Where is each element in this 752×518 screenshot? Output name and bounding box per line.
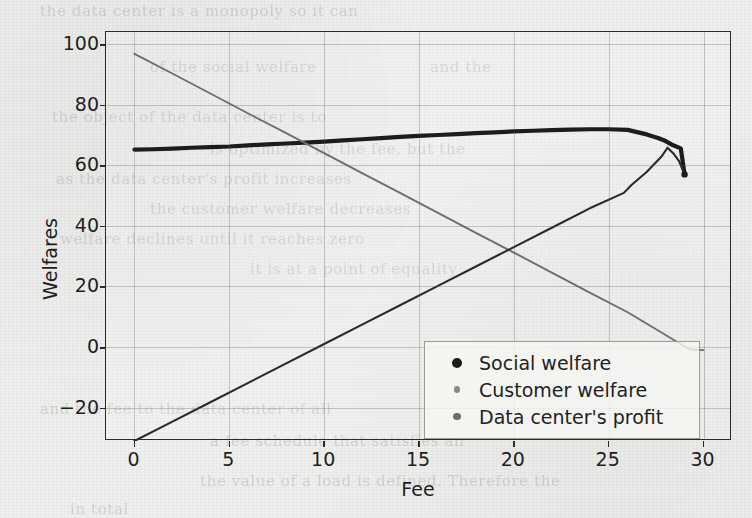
legend-item[interactable]: Customer welfare (435, 376, 689, 403)
gridline-horizontal (106, 226, 730, 227)
y-tick-label: −20 (59, 397, 99, 416)
y-tick-label: 20 (75, 276, 99, 295)
legend-item[interactable]: Data center's profit (435, 403, 689, 430)
x-tick-mark (513, 441, 515, 447)
x-tick-label: 10 (311, 450, 335, 469)
x-tick-mark (229, 441, 231, 447)
x-axis-tick-labels: 051015202530 (105, 446, 731, 472)
y-axis-tick-labels: −20020406080100 (0, 31, 99, 440)
y-tick-mark (100, 105, 106, 107)
welfares-vs-fee-figure: Welfares Fee −20020406080100 05101520253… (0, 0, 752, 518)
x-axis-label: Fee (401, 478, 434, 500)
x-tick-label: 25 (596, 450, 620, 469)
legend-label: Customer welfare (479, 379, 647, 401)
x-tick-label: 15 (406, 450, 430, 469)
chart-legend[interactable]: Social welfareCustomer welfareData cente… (424, 341, 700, 439)
x-tick-mark (134, 441, 136, 447)
y-tick-mark (100, 286, 106, 288)
y-tick-mark (100, 44, 106, 46)
y-tick-mark (100, 226, 106, 228)
x-tick-label: 20 (501, 450, 525, 469)
gridline-vertical (419, 32, 420, 439)
y-tick-label: 0 (87, 337, 99, 356)
x-tick-mark (418, 441, 420, 447)
gridline-vertical (134, 32, 135, 439)
x-tick-mark (323, 441, 325, 447)
y-tick-label: 80 (75, 94, 99, 113)
legend-label: Data center's profit (479, 406, 663, 428)
x-tick-label: 0 (127, 450, 139, 469)
x-tick-label: 5 (222, 450, 234, 469)
legend-marker-dot-icon (435, 358, 479, 368)
y-tick-label: 40 (75, 215, 99, 234)
legend-marker-dot-icon (435, 413, 479, 420)
gridline-horizontal (106, 44, 730, 45)
legend-marker-dot-icon (435, 386, 479, 393)
gridline-vertical (229, 32, 230, 439)
legend-item[interactable]: Social welfare (435, 349, 689, 376)
y-tick-mark (100, 347, 106, 349)
x-tick-mark (608, 441, 610, 447)
x-tick-mark (703, 441, 705, 447)
gridline-vertical (704, 32, 705, 439)
y-tick-mark (100, 408, 106, 410)
gridline-vertical (324, 32, 325, 439)
legend-label: Social welfare (479, 352, 611, 374)
y-tick-label: 100 (63, 34, 99, 53)
gridline-horizontal (106, 286, 730, 287)
gridline-horizontal (106, 105, 730, 106)
y-tick-label: 60 (75, 155, 99, 174)
gridline-horizontal (106, 165, 730, 166)
y-tick-mark (100, 165, 106, 167)
x-tick-label: 30 (690, 450, 714, 469)
